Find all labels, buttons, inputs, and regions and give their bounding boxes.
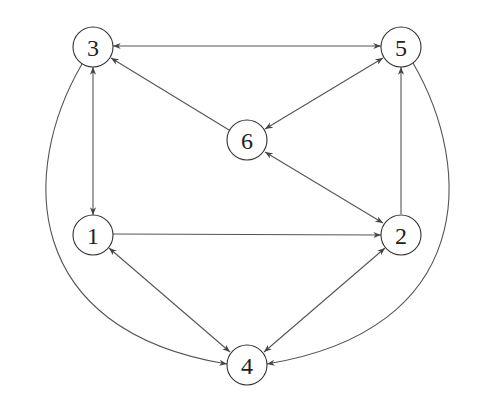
node-4-label: 4 <box>241 353 253 379</box>
edge-6-2 <box>265 152 383 223</box>
edge-5-4-curved <box>267 63 449 364</box>
node-5-label: 5 <box>395 35 407 61</box>
node-6-label: 6 <box>241 128 253 154</box>
node-3-label: 3 <box>87 35 99 61</box>
graph-diagram: 3 5 6 1 2 4 <box>0 0 487 405</box>
node-2-label: 2 <box>395 223 407 249</box>
edge-2-4 <box>264 248 385 352</box>
node-5: 5 <box>381 27 421 67</box>
edges <box>46 46 449 364</box>
edge-3-4-curved <box>46 64 227 364</box>
edge-1-4 <box>109 248 230 352</box>
node-1-label: 1 <box>87 223 99 249</box>
node-2: 2 <box>381 215 421 255</box>
edge-6-5 <box>265 58 383 129</box>
node-6: 6 <box>227 120 267 160</box>
node-4: 4 <box>227 345 267 385</box>
node-1: 1 <box>73 215 113 255</box>
edge-1-2 <box>113 234 381 235</box>
edge-6-3 <box>111 58 229 130</box>
node-3: 3 <box>73 27 113 67</box>
